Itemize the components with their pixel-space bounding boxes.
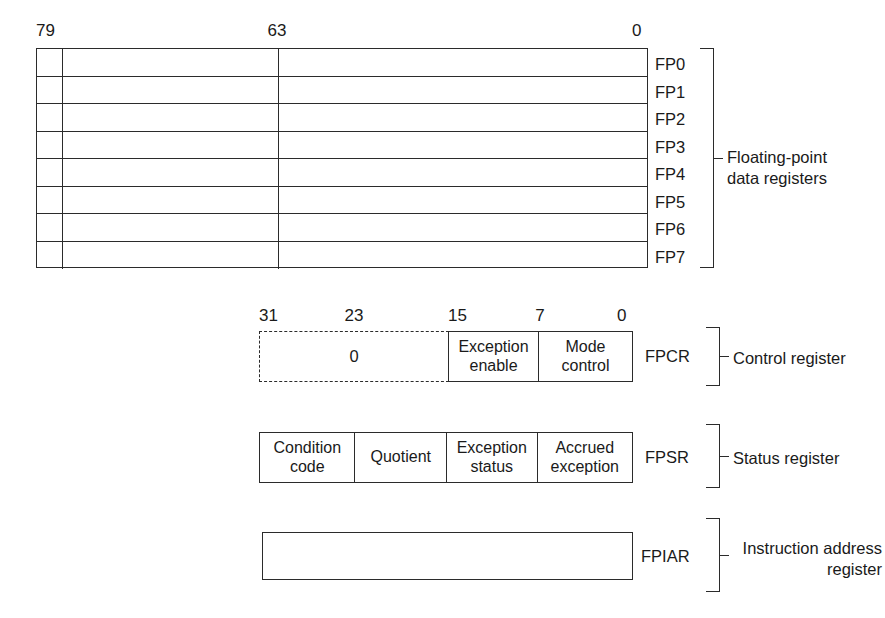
fpcr-bracket-tick — [720, 356, 729, 357]
fp-bit-label-63: 63 — [268, 22, 287, 39]
fpsr-field-condition-code: Condition code — [260, 433, 355, 482]
fp-row-divider-79-64 — [62, 214, 63, 241]
fp-row-divider-63-0 — [278, 214, 279, 241]
fpcr-bit-label-23: 23 — [345, 307, 364, 324]
fp-row-divider-79-64 — [62, 77, 63, 104]
fp-row-divider-79-64 — [62, 104, 63, 131]
fp-row-divider-63-0 — [278, 77, 279, 104]
fp-row-divider-63-0 — [278, 242, 279, 270]
fpcr-bit-label-15: 15 — [448, 307, 467, 324]
register-name-fpiar: FPIAR — [641, 548, 690, 565]
fpcr-bit-label-0: 0 — [617, 307, 626, 324]
fpcr-field-group: Exception enable Mode control — [448, 331, 633, 382]
fp-row-divider-63-0 — [278, 104, 279, 131]
fp-register-row — [37, 77, 647, 105]
fp-row-divider-63-0 — [278, 159, 279, 186]
register-name-fp3: FP3 — [655, 139, 685, 156]
fp-register-row — [37, 159, 647, 187]
fpsr-bracket — [706, 424, 720, 488]
fp-bit-label-79: 79 — [36, 22, 55, 39]
fp-row-divider-63-0 — [278, 132, 279, 159]
fpsr-field-accrued-exception: Accrued exception — [538, 433, 632, 482]
fpcr-description: Control register — [733, 348, 846, 369]
fpcr-bracket — [706, 327, 720, 386]
fp-register-row — [37, 242, 647, 270]
fp-row-divider-79-64 — [62, 242, 63, 270]
fp-data-registers-group-label: Floating-point data registers — [727, 147, 827, 189]
fpcr-bit-label-31: 31 — [259, 307, 278, 324]
register-name-fp2: FP2 — [655, 111, 685, 128]
fpcr-bit-label-7: 7 — [535, 307, 544, 324]
fpsr-description: Status register — [733, 448, 839, 469]
register-name-fpsr: FPSR — [645, 449, 689, 466]
register-name-fpcr: FPCR — [645, 348, 690, 365]
fp-row-divider-79-64 — [62, 132, 63, 159]
fp-data-registers-bracket — [700, 48, 714, 268]
register-name-fp4: FP4 — [655, 166, 685, 183]
fpiar-register-box — [262, 532, 633, 580]
fpsr-field-group: Condition code Quotient Exception status… — [259, 432, 633, 483]
fp-row-divider-79-64 — [62, 187, 63, 214]
fp-register-row — [37, 214, 647, 242]
fp-data-register-grid — [36, 48, 648, 268]
register-name-fp5: FP5 — [655, 194, 685, 211]
fp-register-row — [37, 132, 647, 160]
fpsr-field-quotient: Quotient — [355, 433, 447, 482]
fp-data-registers-bracket-tick — [714, 158, 723, 159]
fpsr-bracket-tick — [720, 456, 729, 457]
fp-row-divider-79-64 — [62, 49, 63, 76]
register-name-fp6: FP6 — [655, 221, 685, 238]
fp-row-divider-79-64 — [62, 159, 63, 186]
register-name-fp7: FP7 — [655, 249, 685, 266]
fp-register-row — [37, 187, 647, 215]
fp-register-row — [37, 49, 647, 77]
fpsr-field-exception-status: Exception status — [447, 433, 538, 482]
fpcr-field-mode-control: Mode control — [539, 332, 632, 381]
fpcr-reserved-value: 0 — [349, 347, 358, 366]
register-name-fp0: FP0 — [655, 56, 685, 73]
fpcr-reserved-field: 0 — [259, 331, 449, 382]
fp-row-divider-63-0 — [278, 49, 279, 76]
fp-row-divider-63-0 — [278, 187, 279, 214]
fp-register-diagram: 79 63 0 — [0, 0, 885, 618]
fp-bit-label-0: 0 — [632, 22, 641, 39]
fpiar-description: Instruction address register — [724, 538, 882, 580]
fpcr-field-exception-enable: Exception enable — [449, 332, 539, 381]
fpiar-bracket — [706, 518, 720, 592]
fp-register-row — [37, 104, 647, 132]
register-name-fp1: FP1 — [655, 84, 685, 101]
